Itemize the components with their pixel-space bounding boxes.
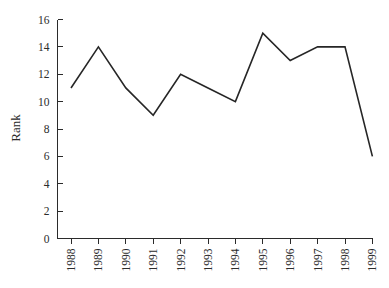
y-axis-tick-label: 8 xyxy=(44,123,50,135)
y-axis-tick-label: 10 xyxy=(38,96,50,108)
y-axis-tick-label: 6 xyxy=(44,150,50,162)
y-axis-tick-label: 14 xyxy=(38,41,50,53)
y-axis-tick-label: 0 xyxy=(44,233,50,245)
x-axis-tick-label: 1988 xyxy=(65,248,77,271)
x-axis-tick-label: 1989 xyxy=(92,248,104,271)
y-axis-tick-label: 4 xyxy=(44,178,50,190)
x-axis-tick-label: 1998 xyxy=(339,248,351,271)
x-axis-tick-label: 1991 xyxy=(147,248,159,271)
x-axis-tick-label: 1995 xyxy=(257,248,269,271)
y-axis-tick-label: 12 xyxy=(38,68,50,80)
chart-canvas: 0246810121416 19881989199019911992199319… xyxy=(0,0,389,288)
x-axis-tick-label: 1996 xyxy=(284,248,296,271)
x-axis-tick-label: 1999 xyxy=(366,248,378,271)
x-axis-tick-label: 1992 xyxy=(175,248,187,271)
y-axis-tick-label: 16 xyxy=(38,14,50,26)
x-axis-tick-label: 1994 xyxy=(229,248,241,271)
x-axis-tick-label: 1997 xyxy=(312,248,324,271)
y-axis-title: Rank xyxy=(8,114,23,142)
rank-line-chart: 0246810121416 19881989199019911992199319… xyxy=(0,0,389,288)
y-axis-tick-label: 2 xyxy=(44,205,50,217)
x-axis-tick-label: 1993 xyxy=(202,248,214,271)
x-axis-tick-label: 1990 xyxy=(120,248,132,271)
chart-background xyxy=(0,0,389,288)
